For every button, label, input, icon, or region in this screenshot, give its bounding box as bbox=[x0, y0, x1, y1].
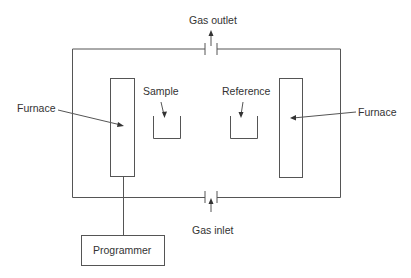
furnace-left-label: Furnace bbox=[17, 102, 56, 114]
gas-outlet-label: Gas outlet bbox=[189, 14, 237, 26]
programmer-label: Programmer bbox=[93, 244, 151, 256]
arrowhead-furnace-right bbox=[290, 115, 296, 121]
reference-cup bbox=[231, 116, 258, 139]
sample-cup bbox=[154, 116, 181, 139]
arrowhead-outlet bbox=[209, 30, 214, 36]
sample-label: Sample bbox=[143, 85, 179, 97]
furnace-left bbox=[111, 79, 135, 177]
furnace-left-pointer bbox=[58, 110, 121, 125]
gas-inlet-label: Gas inlet bbox=[192, 224, 233, 236]
reference-label: Reference bbox=[222, 85, 270, 97]
furnace-right bbox=[280, 79, 303, 178]
dta-schematic bbox=[0, 0, 411, 278]
arrowhead-sample bbox=[162, 112, 167, 119]
arrowhead-furnace-left bbox=[117, 122, 124, 127]
furnace-right-label: Furnace bbox=[358, 106, 397, 118]
arrowhead-inlet bbox=[209, 198, 214, 204]
arrowhead-reference bbox=[239, 112, 244, 118]
